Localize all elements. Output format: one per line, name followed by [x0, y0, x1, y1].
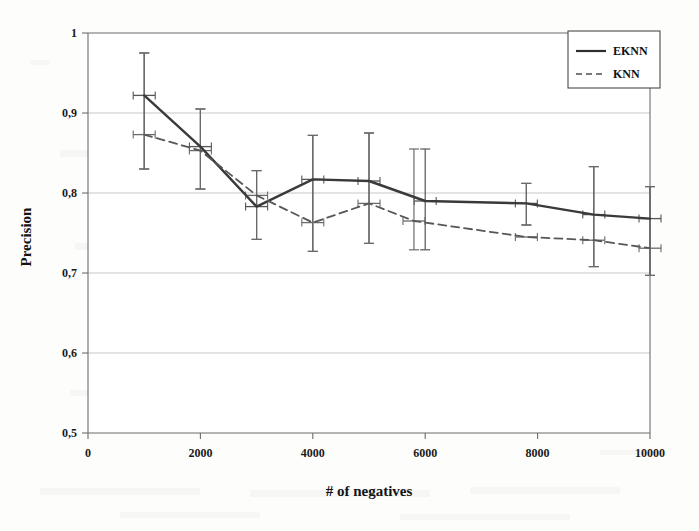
y-tick-label: 0,8 — [62, 186, 77, 200]
y-tick-label: 0,5 — [62, 426, 77, 440]
y-tick-label: 1 — [71, 26, 77, 40]
y-tick-label: 0,7 — [62, 266, 77, 280]
y-tick-label: 0,9 — [62, 106, 77, 120]
x-axis-title: # of negatives — [326, 483, 413, 499]
x-axis: 0200040006000800010000 — [85, 433, 665, 460]
x-tick-label: 8000 — [526, 446, 550, 460]
x-tick-label: 4000 — [301, 446, 325, 460]
chart-page: 0,50,60,70,80,91 0200040006000800010000 … — [0, 0, 699, 531]
x-tick-label: 6000 — [413, 446, 437, 460]
y-axis-title: Precision — [18, 207, 34, 267]
y-tick-label: 0,6 — [62, 346, 77, 360]
precision-vs-negatives-chart: 0,50,60,70,80,91 0200040006000800010000 … — [0, 0, 699, 531]
x-tick-label: 2000 — [188, 446, 212, 460]
legend: EKNN KNN — [568, 31, 660, 88]
legend-label-eknn: EKNN — [613, 44, 648, 58]
x-tick-label: 0 — [85, 446, 91, 460]
legend-label-knn: KNN — [613, 67, 640, 81]
x-tick-label: 10000 — [635, 446, 665, 460]
y-axis: 0,50,60,70,80,91 — [62, 26, 88, 440]
